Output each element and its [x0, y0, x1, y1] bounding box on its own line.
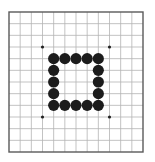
black-stone[interactable] — [59, 100, 70, 111]
go-board[interactable] — [0, 0, 155, 162]
board-canvas[interactable] — [0, 0, 155, 162]
black-stone[interactable] — [48, 88, 59, 99]
black-stone[interactable] — [70, 53, 81, 64]
grid-lines — [9, 12, 143, 152]
star-point-icon — [108, 115, 111, 118]
star-point-icon — [108, 45, 111, 48]
black-stone[interactable] — [48, 53, 59, 64]
black-stone[interactable] — [48, 76, 59, 87]
black-stone[interactable] — [93, 65, 104, 76]
black-stone[interactable] — [70, 100, 81, 111]
star-point-icon — [41, 115, 44, 118]
black-stone[interactable] — [59, 53, 70, 64]
black-stone[interactable] — [93, 53, 104, 64]
star-point-icon — [41, 45, 44, 48]
black-stone[interactable] — [93, 88, 104, 99]
black-stone[interactable] — [48, 100, 59, 111]
black-stone[interactable] — [82, 53, 93, 64]
black-stone[interactable] — [93, 100, 104, 111]
black-stone[interactable] — [93, 76, 104, 87]
black-stone[interactable] — [82, 100, 93, 111]
black-stone[interactable] — [48, 65, 59, 76]
